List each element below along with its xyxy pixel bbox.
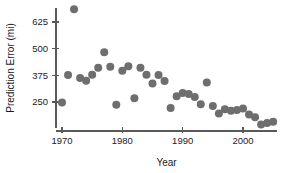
chart-canvas: 250375500625 1970198019902000 Year Predi… (0, 0, 287, 173)
data-point (88, 71, 96, 79)
data-point (58, 98, 66, 106)
data-point (239, 104, 247, 112)
x-axis-title: Year (156, 157, 177, 168)
x-tick-label: 1980 (112, 135, 133, 146)
y-tick-label: 375 (32, 70, 48, 81)
y-tick-label: 250 (32, 96, 48, 107)
data-point (161, 77, 169, 85)
data-point (191, 93, 199, 101)
data-point (251, 113, 259, 121)
y-tick-label: 625 (32, 16, 48, 27)
y-axis-tick-labels: 250375500625 (32, 16, 48, 107)
data-point (100, 48, 108, 56)
data-point (209, 102, 217, 110)
data-point (269, 118, 277, 126)
data-point (142, 71, 150, 79)
data-point (124, 62, 132, 70)
data-point (64, 71, 72, 79)
x-axis-tick-labels: 1970198019902000 (51, 135, 253, 146)
data-point (136, 64, 144, 72)
y-axis-title: Prediction Error (mi) (5, 23, 16, 112)
data-point (167, 104, 175, 112)
x-tick-label: 1970 (51, 135, 72, 146)
x-tick-label: 2000 (232, 135, 253, 146)
data-point (149, 79, 157, 87)
data-point (106, 63, 114, 71)
x-tick-label: 1990 (172, 135, 193, 146)
x-axis: 1970198019902000 (51, 127, 277, 146)
data-point (94, 64, 102, 72)
x-axis-ticks (62, 127, 243, 133)
data-point (197, 100, 205, 108)
data-point (112, 101, 120, 109)
data-point (130, 94, 138, 102)
data-points (58, 5, 277, 128)
data-point (155, 71, 163, 79)
y-tick-label: 500 (32, 43, 48, 54)
data-point (203, 79, 211, 87)
scatter-plot-figure: 250375500625 1970198019902000 Year Predi… (0, 0, 287, 173)
data-point (70, 5, 78, 13)
data-point (82, 77, 90, 85)
y-axis: 250375500625 (32, 8, 59, 128)
